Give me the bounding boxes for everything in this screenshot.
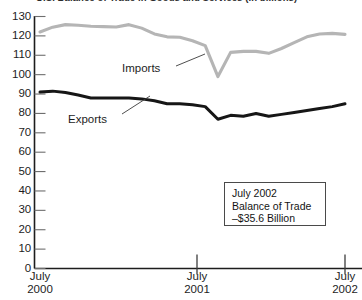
- chart-container: U.S. Balance of Trade in Goods and Servi…: [0, 0, 362, 300]
- x-axis-tick-2: July 2002: [315, 270, 362, 296]
- x-axis-tick-1: July 2001: [167, 270, 227, 296]
- y-axis-tick-120: 120: [3, 30, 31, 41]
- x-axis-tick-0: July 2000: [10, 270, 70, 296]
- x-axis-tick-1-line1: July: [167, 270, 227, 283]
- x-axis-tick-2-line1: July: [315, 270, 362, 283]
- note-line-0: July 2002: [232, 187, 325, 200]
- y-axis-tick-50: 50: [3, 166, 31, 177]
- y-axis-tick-130: 130: [3, 11, 31, 22]
- y-axis-tick-30: 30: [3, 204, 31, 215]
- series-line-imports: [40, 25, 345, 77]
- leader-line-imports: [176, 54, 205, 66]
- x-axis-tick-0-line2: 2000: [10, 283, 70, 296]
- y-axis-tick-70: 70: [3, 127, 31, 138]
- y-axis-tick-100: 100: [3, 69, 31, 80]
- y-axis-tick-90: 90: [3, 88, 31, 99]
- y-axis-tick-60: 60: [3, 146, 31, 157]
- note-line-1: Balance of Trade: [232, 200, 325, 213]
- balance-of-trade-note: July 2002 Balance of Trade –$35.6 Billio…: [224, 182, 326, 226]
- y-axis-tick-10: 10: [3, 243, 31, 254]
- y-axis-tick-110: 110: [3, 49, 31, 60]
- series-label-exports: Exports: [68, 113, 107, 125]
- y-axis-tick-40: 40: [3, 185, 31, 196]
- y-axis-tick-80: 80: [3, 107, 31, 118]
- y-axis: 1301201101009080706050403020100: [0, 0, 31, 300]
- chart-plot-area: [0, 0, 362, 300]
- x-axis-tick-1-line2: 2001: [167, 283, 227, 296]
- x-axis-tick-2-line2: 2002: [315, 283, 362, 296]
- note-line-2: –$35.6 Billion: [232, 212, 325, 225]
- series-label-imports: Imports: [122, 62, 160, 74]
- y-axis-tick-20: 20: [3, 224, 31, 235]
- x-axis-tick-0-line1: July: [10, 270, 70, 283]
